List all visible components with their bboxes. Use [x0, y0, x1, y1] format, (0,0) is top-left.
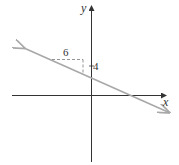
run-label: 6	[63, 46, 69, 58]
sloped-line	[24, 48, 169, 113]
rise-label: 4	[93, 60, 99, 72]
x-axis-label: x	[162, 95, 169, 109]
y-axis-label: y	[80, 1, 87, 15]
coordinate-diagram: 6 4 y x	[0, 0, 179, 165]
diagram-svg: 6 4 y x	[0, 0, 179, 165]
